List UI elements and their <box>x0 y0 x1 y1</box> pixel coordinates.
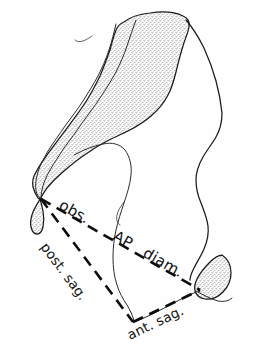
sacrum-body-shape <box>33 12 190 199</box>
label-diam: diam. <box>140 244 186 281</box>
label-obs: obs. <box>56 196 93 228</box>
ilium-outline-shape <box>186 20 222 280</box>
coccyx-tip-shape <box>31 199 44 234</box>
pelvis-diagram-figure: obs. AP diam. post. sag. ant. sag. <box>0 0 259 357</box>
label-post-sag: post. sag. <box>38 239 91 303</box>
pelvis-diagram-svg: obs. AP diam. post. sag. ant. sag. <box>0 0 259 357</box>
pubic-symphysis-shape <box>195 255 231 299</box>
sacral-notch-detail <box>75 36 92 42</box>
label-ap: AP <box>110 227 136 252</box>
